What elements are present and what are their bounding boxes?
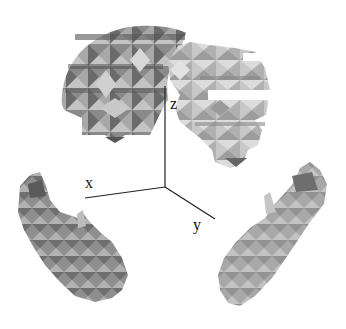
figure-canvas: z x y: [0, 0, 346, 329]
top-left-cluster: [62, 26, 186, 143]
z-axis-label: z: [170, 96, 177, 112]
y-axis-label: y: [193, 217, 201, 233]
x-axis-label: x: [85, 175, 93, 191]
top-right-cluster: [168, 42, 270, 168]
bottom-left-cluster: [18, 172, 128, 302]
y-axis-line: [165, 187, 215, 219]
figure-svg: [0, 0, 346, 329]
bottom-right-cluster: [218, 162, 327, 306]
x-axis-line: [85, 187, 165, 198]
